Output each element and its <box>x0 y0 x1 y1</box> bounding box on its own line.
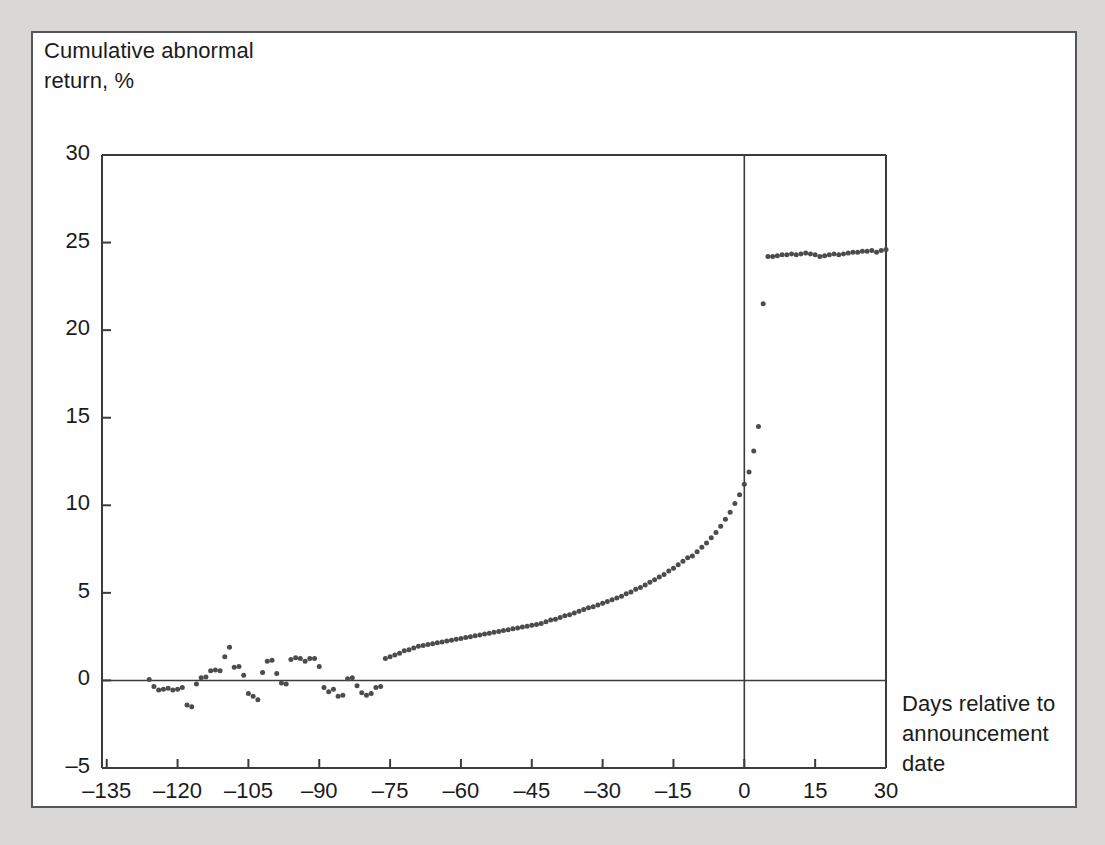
data-point <box>340 693 345 698</box>
data-point <box>817 254 822 259</box>
data-point <box>336 694 341 699</box>
data-point <box>232 665 237 670</box>
data-point <box>794 252 799 257</box>
data-point <box>454 637 459 642</box>
data-point <box>406 647 411 652</box>
data-point <box>227 645 232 650</box>
data-point <box>213 667 218 672</box>
data-point <box>255 697 260 702</box>
data-point <box>836 252 841 257</box>
data-point <box>879 248 884 253</box>
data-point <box>572 611 577 616</box>
data-point <box>317 664 322 669</box>
data-point <box>246 691 251 696</box>
data-point <box>463 635 468 640</box>
data-point <box>647 580 652 585</box>
data-point <box>151 684 156 689</box>
data-point <box>506 627 511 632</box>
data-point <box>492 630 497 635</box>
data-point <box>307 656 312 661</box>
data-point <box>345 676 350 681</box>
data-point <box>827 252 832 257</box>
data-point <box>312 656 317 661</box>
data-point <box>860 249 865 254</box>
data-point <box>869 248 874 253</box>
data-point <box>723 517 728 522</box>
data-point <box>369 691 374 696</box>
data-point <box>855 250 860 255</box>
data-point <box>487 631 492 636</box>
data-point <box>680 559 685 564</box>
data-point <box>742 482 747 487</box>
data-point <box>279 681 284 686</box>
data-point <box>614 596 619 601</box>
y-tick-label: –5 <box>30 753 90 779</box>
data-point <box>331 687 336 692</box>
y-tick-label: 5 <box>30 578 90 604</box>
data-point <box>780 252 785 257</box>
data-point <box>189 704 194 709</box>
data-point <box>170 688 175 693</box>
data-point <box>449 638 454 643</box>
reference-lines <box>102 155 886 768</box>
data-point <box>884 247 889 252</box>
data-point <box>350 675 355 680</box>
data-point <box>251 694 256 699</box>
data-point <box>425 642 430 647</box>
data-point <box>270 658 275 663</box>
tick-marks <box>102 155 886 768</box>
data-point <box>732 501 737 506</box>
data-point <box>605 599 610 604</box>
data-point <box>595 603 600 608</box>
data-point <box>832 251 837 256</box>
x-tick-label: –120 <box>138 778 218 804</box>
data-point <box>666 568 671 573</box>
data-point <box>643 582 648 587</box>
data-point <box>591 604 596 609</box>
x-tick-label: –60 <box>421 778 501 804</box>
data-point <box>416 644 421 649</box>
data-point <box>411 646 416 651</box>
x-tick-label: –75 <box>350 778 430 804</box>
data-point <box>383 656 388 661</box>
data-point <box>355 683 360 688</box>
data-point <box>662 572 667 577</box>
data-point <box>803 251 808 256</box>
data-point <box>440 639 445 644</box>
data-point <box>747 470 752 475</box>
data-point <box>770 254 775 259</box>
axes-group <box>102 155 886 768</box>
data-point <box>695 549 700 554</box>
figure-page: Cumulative abnormal return, % Days relat… <box>0 0 1105 845</box>
data-point <box>161 687 166 692</box>
data-point <box>784 252 789 257</box>
data-point <box>850 250 855 255</box>
data-point <box>704 540 709 545</box>
data-point <box>458 636 463 641</box>
x-tick-label: 30 <box>846 778 926 804</box>
data-point <box>600 601 605 606</box>
data-point <box>529 623 534 628</box>
data-point <box>751 448 756 453</box>
data-point <box>473 633 478 638</box>
data-point <box>359 690 364 695</box>
data-point <box>789 251 794 256</box>
data-point <box>619 594 624 599</box>
data-point <box>373 685 378 690</box>
data-point <box>430 641 435 646</box>
data-point <box>435 640 440 645</box>
data-point <box>185 702 190 707</box>
data-point <box>841 251 846 256</box>
data-point <box>241 673 246 678</box>
data-point <box>194 681 199 686</box>
y-tick-label: 15 <box>30 403 90 429</box>
scatter-plot <box>0 0 1105 845</box>
data-point <box>558 615 563 620</box>
data-point <box>543 619 548 624</box>
data-point <box>364 693 369 698</box>
data-point <box>236 664 241 669</box>
data-point <box>562 613 567 618</box>
data-point <box>444 639 449 644</box>
data-points <box>147 247 889 709</box>
data-point <box>288 657 293 662</box>
